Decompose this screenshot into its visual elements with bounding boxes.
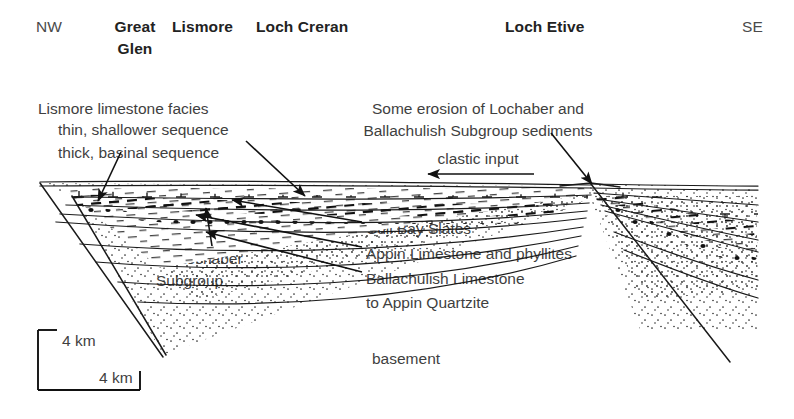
leader-arrow-erosion bbox=[551, 133, 592, 184]
scale-bar bbox=[38, 330, 140, 390]
cross-section-drawing bbox=[0, 0, 794, 419]
cross-section-figure: NW Great Glen Lismore Loch Creran Loch E… bbox=[0, 0, 794, 419]
